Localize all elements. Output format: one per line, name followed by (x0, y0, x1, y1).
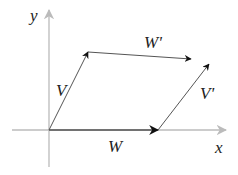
vector-labels: W V W' V' (56, 33, 214, 156)
vector-w-prime (88, 52, 191, 59)
vector-diagram: x y W V W' V' (0, 0, 238, 175)
x-axis-label: x (214, 138, 223, 157)
vector-v (49, 52, 88, 130)
y-axis-label: y (28, 6, 38, 25)
label-w: W (108, 137, 124, 156)
label-v-prime: V' (200, 84, 214, 103)
vectors (49, 52, 209, 130)
label-w-prime: W' (144, 33, 162, 52)
label-v: V (56, 81, 69, 100)
